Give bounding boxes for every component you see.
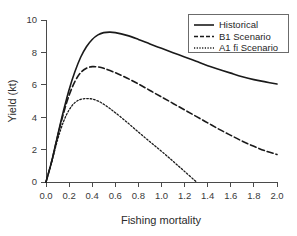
data-series-group [46,32,277,182]
legend-label: A1 fi Scenario [219,42,278,53]
x-tick-label: 0.4 [86,190,99,201]
y-tick-label: 10 [26,14,37,25]
x-tick-label: 1.6 [224,190,237,201]
y-tick-label: 6 [32,79,37,90]
y-axis-title: Yield (kt) [6,80,18,123]
chart-svg: 0246810 0.00.20.40.60.81.01.21.41.61.82.… [0,0,297,236]
x-axis-tick-labels: 0.00.20.40.60.81.01.21.41.61.82.0 [39,190,283,201]
x-tick-label: 1.8 [247,190,260,201]
series-line-b1-scenario [46,67,277,182]
x-tick-label: 1.4 [201,190,214,201]
y-tick-label: 0 [32,176,37,187]
y-tick-label: 8 [32,47,37,58]
legend-label: B1 Scenario [219,31,271,42]
x-tick-label: 0.6 [109,190,122,201]
y-tick-label: 4 [32,112,37,123]
x-tick-label: 1.0 [155,190,168,201]
y-axis: 0246810 [26,14,46,187]
x-axis-ticks [46,182,277,187]
y-axis-tick-labels: 0246810 [26,14,37,187]
y-axis-ticks [41,20,46,182]
x-axis-title: Fishing mortality [121,214,202,226]
x-tick-label: 2.0 [270,190,283,201]
legend-label: Historical [219,19,258,30]
y-tick-label: 2 [32,144,37,155]
x-tick-label: 1.2 [178,190,191,201]
x-tick-label: 0.2 [62,190,75,201]
x-axis: 0.00.20.40.60.81.01.21.41.61.82.0 [39,182,283,201]
series-line-a1-fi-scenario [46,99,196,182]
x-tick-label: 0.8 [132,190,145,201]
chart-legend: HistoricalB1 ScenarioA1 fi Scenario [189,15,289,54]
yield-vs-fishing-mortality-chart: 0246810 0.00.20.40.60.81.01.21.41.61.82.… [0,0,297,236]
series-line-historical [46,32,277,182]
x-tick-label: 0.0 [39,190,52,201]
